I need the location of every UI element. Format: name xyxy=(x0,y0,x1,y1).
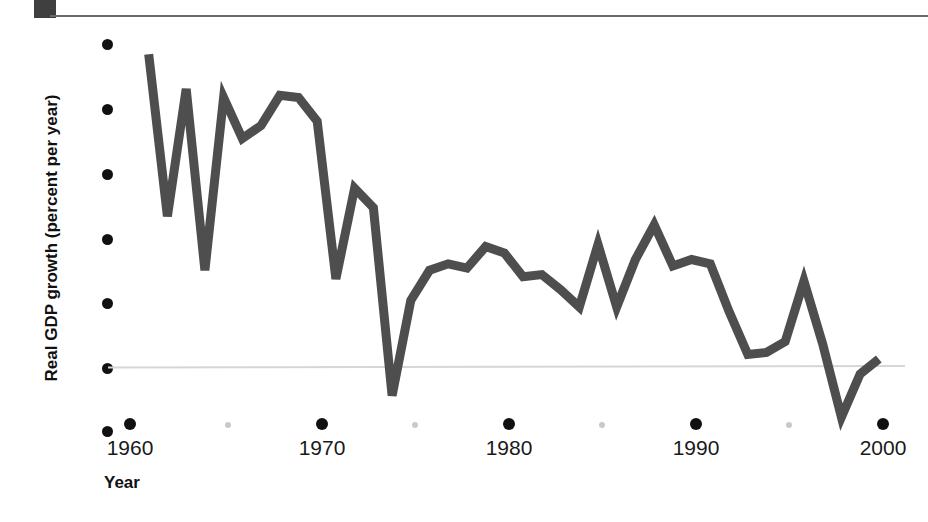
x-tick-dot xyxy=(690,418,702,430)
x-tick-minor-dot xyxy=(786,422,792,428)
x-axis-title: Year xyxy=(104,473,140,493)
x-tick-minor-dot xyxy=(225,422,231,428)
y-tick-dot xyxy=(102,104,113,115)
x-tick-label: 1970 xyxy=(282,436,362,460)
x-tick-label: 1990 xyxy=(656,436,736,460)
x-tick-dot xyxy=(877,418,889,430)
gdp-growth-series-line xyxy=(149,54,879,417)
y-tick-dot xyxy=(102,363,113,374)
y-tick-dot xyxy=(102,39,113,50)
y-tick-dot xyxy=(102,298,113,309)
x-tick-dot xyxy=(124,418,136,430)
zero-baseline xyxy=(108,366,905,368)
y-tick-dot xyxy=(102,169,113,180)
x-tick-minor-dot xyxy=(412,422,418,428)
x-tick-label: 2000 xyxy=(843,436,923,460)
x-tick-minor-dot xyxy=(599,422,605,428)
y-tick-dot xyxy=(102,234,113,245)
x-tick-dot xyxy=(503,418,515,430)
x-tick-label: 1960 xyxy=(90,436,170,460)
y-axis-title: Real GDP growth (percent per year) xyxy=(42,38,62,438)
x-tick-label: 1980 xyxy=(469,436,549,460)
x-tick-dot xyxy=(316,418,328,430)
gdp-growth-line-chart: Real GDP growth (percent per year) 15 12… xyxy=(0,0,928,522)
